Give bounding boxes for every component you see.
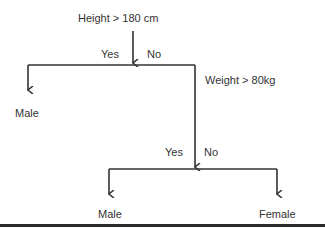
decision-tree-lines	[0, 0, 325, 229]
root-condition: Height > 180 cm	[78, 12, 158, 24]
node2-no-label: No	[204, 146, 218, 158]
leaf-bottom-left: Male	[98, 208, 122, 220]
leaf-top-left: Male	[15, 107, 39, 119]
leaf-bottom-right: Female	[259, 208, 296, 220]
root-yes-label: Yes	[101, 48, 119, 60]
node2-condition: Weight > 80kg	[205, 74, 275, 86]
bottom-rule	[0, 224, 325, 227]
root-no-label: No	[147, 48, 161, 60]
node2-yes-label: Yes	[165, 146, 183, 158]
